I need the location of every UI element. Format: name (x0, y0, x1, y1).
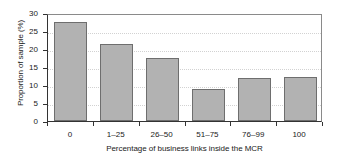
x-tick-label: 26–50 (139, 130, 185, 139)
x-tick-mark (185, 122, 186, 126)
x-tick-label: 76–99 (230, 130, 276, 139)
y-tick-label: 15 (16, 64, 38, 72)
x-tick-label: 1–25 (93, 130, 139, 139)
x-axis-title: Percentage of business links inside the … (47, 144, 322, 153)
x-tick-mark (93, 122, 94, 126)
x-tick-label: 51–75 (185, 130, 231, 139)
bar-chart-figure: Proportion of sample (%) 051015202530 01… (0, 0, 339, 162)
y-tick-label: 0 (16, 118, 38, 126)
y-tick-label: 30 (16, 10, 38, 18)
bar (146, 58, 179, 121)
x-tick-mark (47, 122, 48, 126)
x-tick-mark (230, 122, 231, 126)
bar (284, 77, 317, 121)
bar (54, 22, 87, 121)
gridline (48, 69, 321, 70)
gridline (48, 51, 321, 52)
bar (238, 78, 271, 121)
bar (100, 44, 133, 121)
y-tick-label: 5 (16, 100, 38, 108)
gridline (48, 105, 321, 106)
gridline (48, 33, 321, 34)
gridline (48, 87, 321, 88)
x-tick-label: 0 (47, 130, 93, 139)
x-tick-mark (139, 122, 140, 126)
y-tick-label: 10 (16, 82, 38, 90)
bar (192, 89, 225, 121)
plot-area (47, 14, 322, 122)
y-tick-label: 25 (16, 28, 38, 36)
x-tick-mark (276, 122, 277, 126)
y-tick-label: 20 (16, 46, 38, 54)
x-tick-label: 100 (276, 130, 322, 139)
x-tick-mark (322, 122, 323, 126)
